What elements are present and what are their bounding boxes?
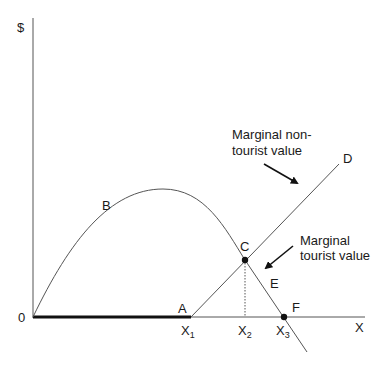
point-c-dot <box>242 257 248 263</box>
point-e-label: E <box>270 276 279 291</box>
non-tourist-arrow-icon <box>264 164 297 183</box>
point-a-label: A <box>178 301 187 316</box>
x2-tick-label: X2 <box>238 323 252 340</box>
point-b-label: B <box>102 198 111 213</box>
tourist-annotation-line1: Marginal <box>300 233 350 248</box>
marginal-tourist-value-curve <box>33 189 307 352</box>
x1-tick-label: X1 <box>181 323 195 340</box>
non-tourist-annotation-line1: Marginal non- <box>232 127 312 142</box>
x-axis-label: X <box>355 320 364 335</box>
tourist-annotation-line2: tourist value <box>300 248 370 263</box>
point-f-dot <box>281 314 287 320</box>
x3-tick-label: X3 <box>276 323 290 340</box>
marginal-value-diagram: $ X 0 A B C D E F X1 X2 X3 Marginal non-… <box>0 0 381 365</box>
tourist-arrow-icon <box>266 246 293 268</box>
y-axis-label: $ <box>17 20 25 35</box>
point-f-label: F <box>292 300 300 315</box>
point-c-label: C <box>240 239 249 254</box>
non-tourist-annotation-line2: tourist value <box>232 143 302 158</box>
origin-label: 0 <box>18 310 25 325</box>
point-d-label: D <box>343 151 352 166</box>
